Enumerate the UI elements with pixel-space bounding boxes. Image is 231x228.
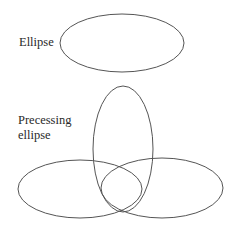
single-ellipse — [60, 14, 184, 72]
precessing-ellipse-right — [101, 158, 223, 218]
ellipse-diagram — [0, 0, 231, 228]
precessing-ellipse-left — [18, 160, 142, 218]
